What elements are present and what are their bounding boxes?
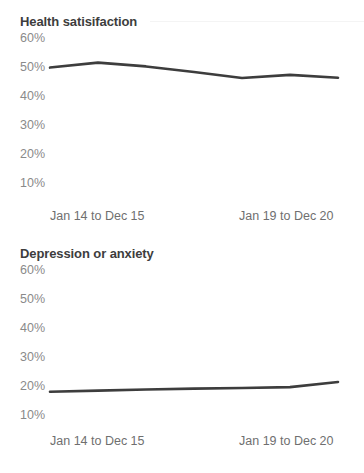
line-chart-depression-anxiety <box>0 266 364 446</box>
x-axis-tick-start: Jan 14 to Dec 15 <box>50 209 145 224</box>
x-axis-health-satisfaction: Jan 14 to Dec 15 Jan 19 to Dec 20 <box>0 209 364 225</box>
plot-area-health-satisfaction: 60% 50% 40% 30% 20% 10% <box>0 34 364 214</box>
chart-title-depression-anxiety: Depression or anxiety <box>20 246 154 261</box>
data-line-health-satisfaction <box>50 63 338 78</box>
chart-panel-health-satisfaction: Health satisifaction 60% 50% 40% 30% 20%… <box>0 0 364 232</box>
x-axis-depression-anxiety: Jan 14 to Dec 15 Jan 19 to Dec 20 <box>0 434 364 450</box>
x-axis-tick-end: Jan 19 to Dec 20 <box>239 434 334 449</box>
chart-panel-depression-anxiety: Depression or anxiety 60% 50% 40% 30% 20… <box>0 232 364 473</box>
charts-page: Health satisifaction 60% 50% 40% 30% 20%… <box>0 0 364 473</box>
plot-area-depression-anxiety: 60% 50% 40% 30% 20% 10% <box>0 266 364 446</box>
chart-title-health-satisfaction: Health satisifaction <box>20 14 137 29</box>
x-axis-tick-end: Jan 19 to Dec 20 <box>239 209 334 224</box>
line-chart-health-satisfaction <box>0 34 364 214</box>
data-line-depression-anxiety <box>50 382 338 392</box>
x-axis-tick-start: Jan 14 to Dec 15 <box>50 434 145 449</box>
